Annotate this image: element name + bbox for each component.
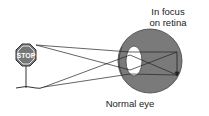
eyeball [118,29,182,93]
focus-label-line1: In focus [140,6,196,17]
svg-text:STOP: STOP [17,52,36,59]
focus-label: In focus on retina [140,6,196,28]
stop-sign-icon: STOP [16,44,44,88]
diagram-title: Normal eye [95,98,165,109]
focus-label-line2: on retina [140,17,196,28]
lens [126,46,142,76]
